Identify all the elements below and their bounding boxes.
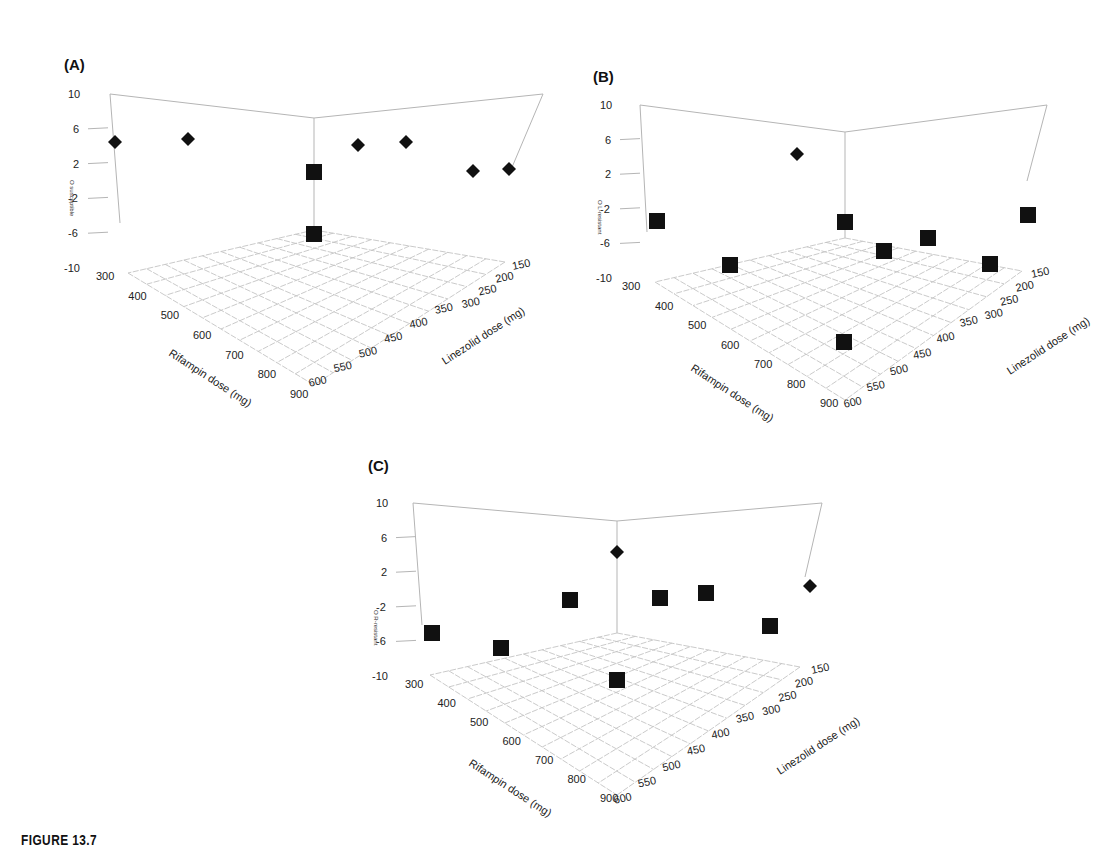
z-tick-label: -10 [372,670,388,682]
z-tick-label: 6 [73,123,79,135]
x-tick-label: 800 [568,773,586,785]
x-tick-label: 800 [258,368,276,380]
x-tick-label: 300 [405,678,423,690]
y-tick-label: 600 [307,373,327,389]
square-marker [698,585,714,601]
y-axis-title: Linezolid dose (mg) [1005,314,1092,376]
diamond-marker [399,135,413,149]
diamond-marker [181,132,195,146]
y-tick-label: 400 [935,329,955,345]
square-marker [609,672,625,688]
z-tick-label: -10 [596,272,612,284]
y-tick-label: 450 [686,742,706,758]
x-tick-label: 500 [688,319,706,331]
x-tick-label: 500 [470,716,488,728]
y-tick-label: 250 [999,292,1019,308]
y-tick-label: 550 [637,774,657,790]
y-tick-label: 250 [777,688,797,704]
y-tick-label: 200 [1014,278,1034,294]
x-tick-label: 700 [754,358,772,370]
x-tick-label: 700 [535,754,553,766]
x-tick-label: 900 [290,388,308,400]
square-marker [649,213,665,229]
square-marker [306,164,322,180]
x-tick-label: 700 [225,349,243,361]
y-tick-label: 300 [460,295,480,311]
y-tick-label: 600 [612,790,632,806]
y-tick-label: 500 [661,758,681,774]
y-tick-label: 300 [761,702,781,718]
x-tick-label: 600 [721,339,739,351]
y-axis-title: Linezolid dose (mg) [440,304,527,366]
plot-panel-b: 1062-2-6-1030040050060070080090015020025… [596,99,1092,424]
diamond-marker [502,162,516,176]
x-tick-label: 400 [655,300,673,312]
square-marker [837,214,853,230]
diamond-marker [466,164,480,178]
y-tick-label: 550 [866,378,886,394]
square-marker [982,256,998,272]
square-marker [562,592,578,608]
z-tick-label: 6 [605,134,611,146]
diamond-marker [108,135,122,149]
square-marker [424,625,440,641]
square-marker [493,640,509,656]
y-tick-label: 250 [477,282,497,298]
y-tick-label: 150 [810,660,830,676]
y-tick-label: 350 [735,709,755,725]
square-marker [876,243,892,259]
y-tick-label: 450 [383,330,403,346]
z-tick-label: 2 [381,566,387,578]
y-axis-title: Linezolid dose (mg) [775,714,862,776]
z-tick-label: -6 [600,237,610,249]
z-tick-label: 2 [605,168,611,180]
x-axis-title: Rifampin dose (mg) [689,362,776,424]
square-marker [652,590,668,606]
y-tick-label: 300 [983,306,1003,322]
x-tick-label: 400 [128,290,146,302]
x-tick-label: 600 [193,329,211,341]
square-marker [722,257,738,273]
y-tick-label: 350 [958,313,978,329]
diamond-marker [351,138,365,152]
y-tick-label: 350 [433,300,453,316]
x-tick-label: 300 [96,270,114,282]
y-tick-label: 150 [511,256,531,272]
plot-panel-c: 1062-2-6-1030040050060070080090015020025… [372,497,862,819]
x-tick-label: 600 [503,735,521,747]
y-tick-label: 450 [912,346,932,362]
diamond-marker [803,579,817,593]
x-tick-label: 800 [787,378,805,390]
z-tick-label: 10 [376,497,388,509]
y-tick-label: 500 [358,344,378,360]
z-axis-title: O susceptible [69,180,75,217]
z-tick-label: -10 [64,262,80,274]
square-marker [1020,207,1036,223]
y-tick-label: 600 [842,394,862,410]
square-marker [762,618,778,634]
plot-panel-a: 1062-2-6-1030040050060070080090015020025… [64,88,543,409]
y-tick-label: 550 [333,359,353,375]
figure-caption: FIGURE 13.7 [21,832,97,848]
z-tick-label: 2 [73,158,79,170]
x-tick-label: 500 [161,309,179,321]
square-marker [920,230,936,246]
z-axis-title: O R-resistant [373,610,379,646]
y-tick-label: 200 [794,674,814,690]
x-tick-label: 900 [820,397,838,409]
z-tick-label: 10 [600,99,612,111]
square-marker [306,226,322,242]
z-tick-label: 6 [381,532,387,544]
x-tick-label: 300 [622,280,640,292]
x-tick-label: 400 [438,697,456,709]
square-marker [836,334,852,350]
y-tick-label: 400 [408,315,428,331]
z-tick-label: -6 [68,227,78,239]
diamond-marker [790,147,804,161]
y-tick-label: 500 [889,362,909,378]
y-tick-label: 200 [494,269,514,285]
diamond-marker [610,545,624,559]
y-tick-label: 150 [1030,264,1050,280]
z-axis-title: O L-resistant [597,200,603,235]
z-tick-label: 10 [68,88,80,100]
